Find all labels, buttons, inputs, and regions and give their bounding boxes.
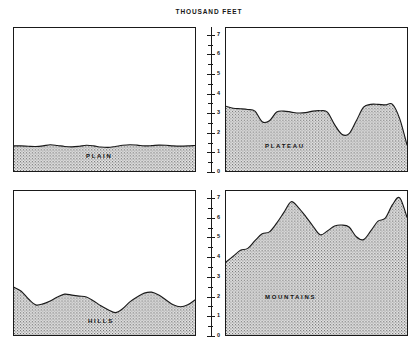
y-axis-tick-label-4: 4 (217, 91, 220, 97)
chart-title: THOUSAND FEET (0, 8, 418, 15)
plain-profile-chart (14, 28, 195, 171)
y-axis-tick-2 (207, 297, 215, 298)
y-axis-tick-label-3: 3 (217, 274, 220, 280)
terrain-fill (226, 197, 407, 335)
y-axis-tick-6 (207, 218, 215, 219)
y-axis-tick-label-2: 2 (217, 294, 220, 300)
y-axis-tick-0 (207, 336, 215, 337)
panel-plateau (225, 27, 408, 172)
y-axis-tick-1 (207, 316, 215, 317)
y-axis-tick-1 (207, 152, 215, 153)
y-axis-tick-label-7: 7 (217, 195, 220, 201)
hills-profile-chart (14, 191, 195, 335)
y-axis-tick-0 (207, 172, 215, 173)
y-axis-minor-tick (208, 103, 213, 104)
y-axis-tick-label-6: 6 (217, 51, 220, 57)
y-axis-tick-label-4: 4 (217, 254, 220, 260)
y-axis-tick-4 (207, 94, 215, 95)
y-axis-tick-label-3: 3 (217, 110, 220, 116)
y-axis-tick-2 (207, 133, 215, 134)
y-axis-minor-tick (208, 84, 213, 85)
y-axis-tick-label-1: 1 (217, 313, 220, 319)
y-axis-minor-tick (208, 247, 213, 248)
y-axis-minor-tick (208, 228, 213, 229)
y-axis-minor-tick (208, 64, 213, 65)
y-axis-minor-tick (208, 306, 213, 307)
y-axis-line-top (211, 27, 212, 172)
y-axis-tick-label-0: 0 (217, 169, 220, 175)
panel-label-plateau: PLATEAU (265, 143, 305, 149)
plateau-profile-chart (226, 28, 407, 171)
panel-plain (13, 27, 196, 172)
y-axis-tick-5 (207, 237, 215, 238)
y-axis-minor-tick (208, 287, 213, 288)
y-axis-tick-7 (207, 198, 215, 199)
y-axis-minor-tick (208, 162, 213, 163)
y-axis-tick-label-5: 5 (217, 71, 220, 77)
y-axis-line-bottom (211, 190, 212, 336)
y-axis-minor-tick (208, 208, 213, 209)
y-axis-minor-tick (208, 326, 213, 327)
y-axis-minor-tick (208, 267, 213, 268)
y-axis-minor-tick (208, 45, 213, 46)
terrain-fill (226, 103, 407, 171)
y-axis-tick-7 (207, 35, 215, 36)
panel-label-mountains: MOUNTAINS (265, 294, 316, 300)
terrain-fill (14, 287, 195, 335)
y-axis-tick-label-0: 0 (217, 333, 220, 339)
y-axis-tick-label-5: 5 (217, 234, 220, 240)
panel-label-hills: HILLS (88, 318, 114, 324)
y-axis-bottom: 76543210 (196, 190, 226, 336)
y-axis-tick-label-6: 6 (217, 215, 220, 221)
panel-hills (13, 190, 196, 336)
y-axis-tick-label-7: 7 (217, 32, 220, 38)
y-axis-minor-tick (208, 143, 213, 144)
y-axis-top: 76543210 (196, 27, 226, 172)
panel-label-plain: PLAIN (86, 153, 113, 159)
y-axis-tick-3 (207, 277, 215, 278)
mountains-profile-chart (226, 191, 407, 335)
y-axis-tick-6 (207, 54, 215, 55)
y-axis-tick-label-1: 1 (217, 149, 220, 155)
y-axis-tick-4 (207, 257, 215, 258)
y-axis-tick-label-2: 2 (217, 130, 220, 136)
y-axis-tick-3 (207, 113, 215, 114)
terrain-profiles-figure: THOUSAND FEET PLAIN PLATEAU HILLS MOUNTA… (0, 0, 418, 356)
panel-mountains (225, 190, 408, 336)
y-axis-tick-5 (207, 74, 215, 75)
y-axis-minor-tick (208, 123, 213, 124)
